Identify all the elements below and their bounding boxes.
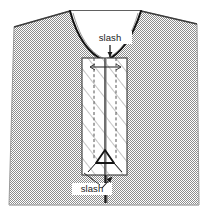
garment-diagram-canvas: slash slash <box>0 0 210 219</box>
garment-diagram-figure: slash slash <box>0 0 210 219</box>
top-slash-label: slash <box>99 32 122 43</box>
